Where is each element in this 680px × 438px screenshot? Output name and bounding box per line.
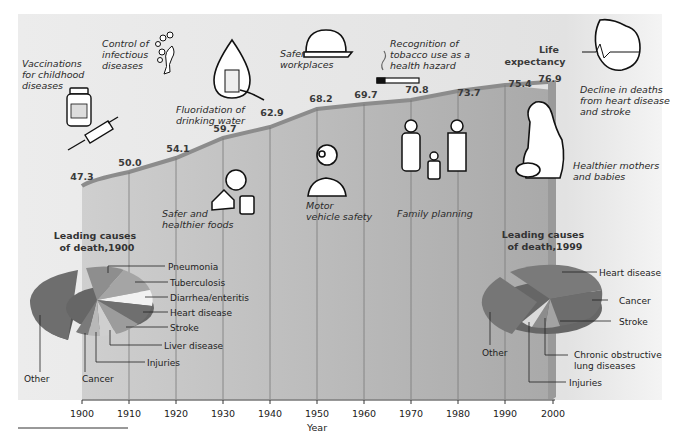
pie-1900-label-diarrhea: Diarrhea/enteritis: [170, 293, 249, 303]
annotation-foods: Safer and healthier foods: [162, 208, 233, 230]
pie-1900-title-line2: of death,1900: [60, 242, 135, 253]
annotation-infectious-disease: Control of infectious diseases: [102, 38, 149, 71]
pie-1999-label-copd-line1: Chronic obstructive: [574, 350, 662, 360]
annotation-vaccinations: Vaccinations for childhood diseases: [22, 58, 84, 91]
pie-1999-label-copd-line2: lung diseases: [574, 361, 636, 371]
tick-label: 1970: [399, 408, 423, 419]
value-label: 47.3: [70, 171, 93, 182]
value-label: 68.2: [309, 93, 332, 104]
series-title-line2: expectancy: [505, 56, 567, 67]
x-axis-title: Year: [306, 422, 327, 433]
pie-1999-label-other: Other: [482, 348, 508, 358]
pie-1999-label-stroke: Stroke: [619, 317, 648, 327]
value-label: 73.7: [457, 87, 480, 98]
pie-1900-label-tuberculosis: Tuberculosis: [169, 278, 225, 288]
annotation-heart-disease: Decline in deaths from heart disease and…: [580, 84, 670, 117]
annotation-workplaces: Safer workplaces: [280, 48, 334, 70]
value-label: 69.7: [354, 89, 377, 100]
annotation-mothers-babies: Healthier mothers and babies: [573, 160, 659, 182]
annotation-tobacco: Recognition of tobacco use as a health h…: [390, 38, 470, 71]
pie-1900-label-cancer: Cancer: [82, 374, 114, 384]
pie-1900-label-stroke: Stroke: [170, 323, 199, 333]
pie-1900-label-pneumonia: Pneumonia: [168, 262, 218, 272]
tick-label: 1980: [446, 408, 470, 419]
pie-1900-label-liver: Liver disease: [164, 341, 224, 351]
pie-1900-label-heart: Heart disease: [170, 308, 233, 318]
tick-label: 1950: [305, 408, 329, 419]
tick-label: 1960: [352, 408, 376, 419]
value-label: 54.1: [166, 143, 189, 154]
annotation-family-planning: Family planning: [397, 208, 473, 219]
tick-label: 1910: [117, 408, 141, 419]
pie-1999-label-cancer: Cancer: [619, 296, 651, 306]
annotation-fluoridation: Fluoridation of drinking water: [176, 104, 245, 126]
tick-label: 1990: [493, 408, 517, 419]
series-title-line1: Life: [539, 44, 559, 55]
value-label: 75.4: [508, 78, 532, 89]
vaccine-vial-icon: [67, 88, 91, 126]
value-label: 76.9: [538, 73, 561, 84]
value-label: 70.8: [405, 84, 429, 95]
pie-1999-title-line2: of death,1999: [508, 241, 583, 252]
x-axis-ticks: [82, 400, 553, 404]
tick-label: 1930: [211, 408, 235, 419]
tick-label: 1900: [70, 408, 94, 419]
tick-label: 2000: [541, 408, 565, 419]
pie-1900-label-other: Other: [24, 374, 50, 384]
pie-1900-title-line1: Leading causes: [54, 230, 137, 241]
pie-1900-label-injuries: Injuries: [147, 358, 180, 368]
tick-label: 1920: [164, 408, 188, 419]
pie-1999-title-line1: Leading causes: [502, 229, 585, 240]
x-axis-tick-labels: 1900 1910 1920 1930 1940 1950 1960 1970 …: [70, 408, 565, 433]
annotation-motor-vehicle: Motor vehicle safety: [306, 200, 372, 222]
pie-1999-label-heart: Heart disease: [599, 268, 662, 278]
value-label: 50.0: [118, 157, 142, 168]
pie-1999-label-injuries: Injuries: [569, 378, 602, 388]
tick-label: 1940: [258, 408, 282, 419]
value-label: 62.9: [260, 107, 283, 118]
